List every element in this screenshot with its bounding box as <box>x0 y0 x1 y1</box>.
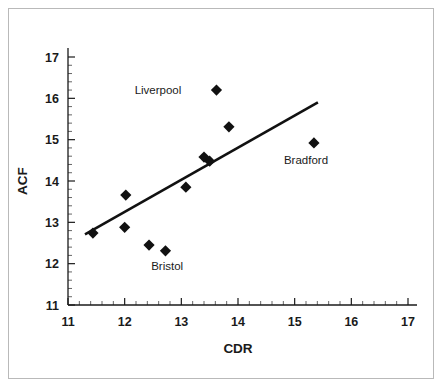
scatter-plot-figure: 11121314151617 11121314151617 LiverpoolB… <box>0 0 442 387</box>
point-annotation-label: Liverpool <box>135 84 182 96</box>
data-point-marker <box>180 182 191 193</box>
data-point-marker <box>87 227 98 238</box>
y-tick-label: 15 <box>45 133 59 147</box>
y-axis-tick-labels: 11121314151617 <box>45 51 59 313</box>
data-point-marker <box>308 137 319 148</box>
figure-border: 11121314151617 11121314151617 LiverpoolB… <box>8 8 434 379</box>
x-tick-label: 15 <box>288 315 302 329</box>
point-annotation-label: Bristol <box>151 260 183 272</box>
x-tick-label: 16 <box>344 315 358 329</box>
data-point-marker <box>160 245 171 256</box>
x-axis-title: CDR <box>223 341 252 356</box>
y-tick-label: 17 <box>45 51 59 65</box>
x-axis-tick-labels: 11121314151617 <box>61 315 415 329</box>
point-annotation-label: Bradford <box>284 154 328 166</box>
data-point-marker <box>211 84 222 95</box>
x-tick-label: 12 <box>118 315 132 329</box>
x-tick-label: 14 <box>231 315 245 329</box>
y-tick-label: 12 <box>45 257 59 271</box>
data-point-marker <box>223 121 234 132</box>
y-tick-label: 16 <box>45 92 59 106</box>
data-point-marker <box>143 239 154 250</box>
data-point-marker <box>119 222 130 233</box>
y-tick-label: 13 <box>45 216 59 230</box>
y-axis-title: ACF <box>15 167 30 195</box>
x-tick-label: 13 <box>174 315 188 329</box>
x-axis-major-ticks <box>68 298 408 305</box>
trend-line <box>85 102 318 234</box>
data-points <box>87 84 319 256</box>
y-axis-major-ticks <box>68 57 75 305</box>
plot-canvas: 11121314151617 11121314151617 LiverpoolB… <box>9 9 433 378</box>
x-tick-label: 11 <box>61 315 74 329</box>
x-tick-label: 17 <box>401 315 415 329</box>
data-point-marker <box>120 189 131 200</box>
y-tick-label: 11 <box>46 299 59 313</box>
y-tick-label: 14 <box>45 175 59 189</box>
